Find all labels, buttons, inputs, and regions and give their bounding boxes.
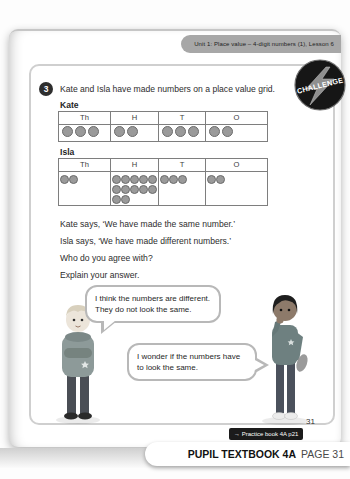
speech-bubble-right-text: I wonder if the numbers have to look the… <box>137 352 240 372</box>
character-shadow <box>56 416 100 424</box>
place-value-counter <box>121 195 130 204</box>
column-header-tens: T <box>159 159 206 172</box>
challenge-badge: CHALLENGE <box>293 58 347 112</box>
place-value-counter <box>216 175 225 184</box>
place-value-counter <box>69 175 78 184</box>
footer-page-label: PAGE 31 <box>301 448 344 460</box>
column-header-ones: O <box>206 159 267 172</box>
place-value-counter <box>121 185 130 194</box>
footer-bar: PUPIL TEXTBOOK 4A PAGE 31 <box>145 442 350 466</box>
kate-ones-cell <box>206 125 267 141</box>
isla-tens-cell <box>159 172 206 205</box>
textbook-page-photo: Unit 1: Place value – 4-digit numbers (1… <box>0 0 350 479</box>
place-value-counter <box>175 126 186 137</box>
isla-ones-cell <box>206 172 267 205</box>
isla-statement: Isla says, ‘We have made different numbe… <box>60 236 231 246</box>
practice-book-reference: → Practice book 4A p21 <box>229 428 303 440</box>
shoe-icon <box>64 413 78 420</box>
crossed-arms <box>64 348 92 358</box>
book-page: Unit 1: Place value – 4-digit numbers (1… <box>9 29 341 447</box>
place-value-counter <box>139 185 148 194</box>
kate-thousands-cell <box>59 125 111 141</box>
place-value-counter <box>139 175 148 184</box>
isla-label: Isla <box>60 147 74 157</box>
column-header-hundreds: H <box>111 112 159 125</box>
agree-question: Who do you agree with? <box>60 253 153 263</box>
kate-place-value-grid: Th H T O <box>58 111 268 142</box>
kate-tens-cell <box>159 125 206 141</box>
question-number: 3 <box>39 82 53 96</box>
speech-bubble-right: I wonder if the numbers have to look the… <box>127 343 257 381</box>
question-text: Kate and Isla have made numbers on a pla… <box>60 84 292 94</box>
column-header-thousands: Th <box>59 159 111 172</box>
isla-place-value-grid: Th H T O <box>58 158 268 206</box>
right-leg <box>80 373 89 415</box>
place-value-counter <box>209 126 220 137</box>
isla-hundreds-cell <box>111 172 159 205</box>
place-value-counter <box>75 126 86 137</box>
character-shadow <box>262 417 308 425</box>
place-value-counter <box>188 126 199 137</box>
kate-label: Kate <box>60 100 79 110</box>
place-value-counter <box>88 126 99 137</box>
place-value-counter <box>112 195 121 204</box>
column-header-hundreds: H <box>111 159 159 172</box>
shoe-icon <box>273 413 286 420</box>
left-leg <box>67 373 76 415</box>
shoe-icon <box>285 413 298 420</box>
hood <box>65 332 91 342</box>
place-value-counter <box>160 175 169 184</box>
place-value-counter <box>130 185 139 194</box>
place-value-counter <box>112 185 121 194</box>
shoe-icon <box>78 413 92 420</box>
right-leg <box>287 361 295 413</box>
column-header-ones: O <box>206 112 267 125</box>
unit-header-label: Unit 1: Place value – 4-digit numbers (1… <box>194 41 334 47</box>
kate-statement: Kate says, ‘We have made the same number… <box>60 219 235 229</box>
place-value-counter <box>60 175 69 184</box>
eye <box>81 319 84 322</box>
place-value-counter <box>162 126 173 137</box>
eye <box>280 309 283 312</box>
place-value-counter <box>127 126 138 137</box>
place-value-counter <box>178 175 187 184</box>
kate-hundreds-cell <box>111 125 159 141</box>
column-header-thousands: Th <box>59 112 111 125</box>
speech-bubble-left-text: I think the numbers are different. They … <box>95 294 210 314</box>
isla-thousands-cell <box>59 172 111 205</box>
left-leg <box>276 361 284 413</box>
place-value-counter <box>62 126 73 137</box>
column-header-tens: T <box>159 112 206 125</box>
place-value-counter <box>112 175 121 184</box>
eye <box>288 309 291 312</box>
speech-bubble-left: I think the numbers are different. They … <box>85 285 221 323</box>
eye <box>73 319 76 322</box>
place-value-counter <box>148 185 157 194</box>
explain-instruction: Explain your answer. <box>60 270 139 280</box>
place-value-counter <box>169 175 178 184</box>
place-value-counter <box>207 175 216 184</box>
footer-book-title: PUPIL TEXTBOOK 4A <box>188 448 296 460</box>
place-value-counter <box>121 175 130 184</box>
place-value-counter <box>114 126 125 137</box>
place-value-counter <box>130 175 139 184</box>
unit-header-tab: Unit 1: Place value – 4-digit numbers (1… <box>181 35 341 53</box>
place-value-counter <box>148 175 157 184</box>
place-value-counter <box>222 126 233 137</box>
